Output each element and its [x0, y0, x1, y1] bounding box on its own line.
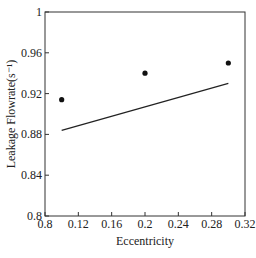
- data-point: [142, 71, 147, 76]
- data-point: [59, 97, 64, 102]
- y-tick-label: 0.84: [21, 168, 42, 182]
- x-tick-label: 0.32: [235, 217, 256, 231]
- x-tick-label: 0.24: [168, 217, 189, 231]
- data-series: [59, 60, 231, 130]
- y-tick-label: 1: [36, 5, 42, 19]
- x-axis-ticks: 0.80.120.160.20.240.280.32: [38, 212, 256, 231]
- x-tick-label: 0.12: [68, 217, 89, 231]
- y-tick-label: 0.88: [21, 127, 42, 141]
- x-tick-label: 0.28: [201, 217, 222, 231]
- plot-border: [45, 12, 245, 216]
- y-axis-label: Leakage Flowrate(s⁻¹): [4, 60, 18, 169]
- x-tick-label: 0.16: [101, 217, 122, 231]
- fit-line: [62, 83, 229, 130]
- data-point: [226, 60, 231, 65]
- chart: 0.80.120.160.20.240.280.32 0.80.840.880.…: [0, 0, 256, 258]
- x-tick-label: 0.2: [138, 217, 153, 231]
- y-tick-label: 0.92: [21, 87, 42, 101]
- y-tick-label: 0.8: [27, 209, 42, 223]
- x-axis-label: Eccentricity: [116, 234, 174, 248]
- y-tick-label: 0.96: [21, 46, 42, 60]
- plot-frame: [45, 12, 245, 216]
